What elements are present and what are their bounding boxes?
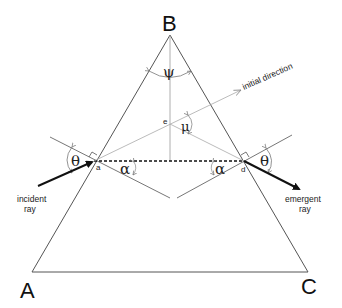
normal-right [177, 135, 292, 198]
normal-left [50, 137, 170, 198]
theta-label-right: θ [260, 152, 269, 170]
incident-ray-label-2: ray [24, 204, 37, 214]
emergent-ray-label-2: ray [299, 204, 312, 214]
psi-label: ψ [163, 63, 175, 81]
right-angle-a [89, 152, 97, 157]
alpha-label-right: α [215, 160, 225, 178]
point-label-d: d [241, 165, 245, 174]
incident-ray-label-1: incident [17, 194, 47, 204]
point-label-a: a [96, 163, 101, 172]
alpha-arc-right [211, 162, 214, 175]
mu-label: μ [181, 119, 189, 134]
theta-label-left: θ [71, 152, 80, 170]
vertex-label-a: A [20, 278, 35, 303]
alpha-arc-left [133, 162, 136, 175]
emergent-ray-label-1: emergent [285, 194, 322, 204]
prism-diagram: B A C ψ μ θ θ α α a d e incident ray eme… [0, 0, 342, 308]
edge-ab [32, 35, 170, 272]
alpha-label-left: α [120, 160, 130, 178]
vertex-label-b: B [162, 11, 177, 36]
initial-direction-label: initial direction [241, 61, 295, 92]
right-angle-d [241, 152, 249, 157]
initial-direction-line [94, 90, 241, 161]
point-label-e: e [163, 117, 168, 126]
vertex-label-c: C [301, 274, 317, 299]
